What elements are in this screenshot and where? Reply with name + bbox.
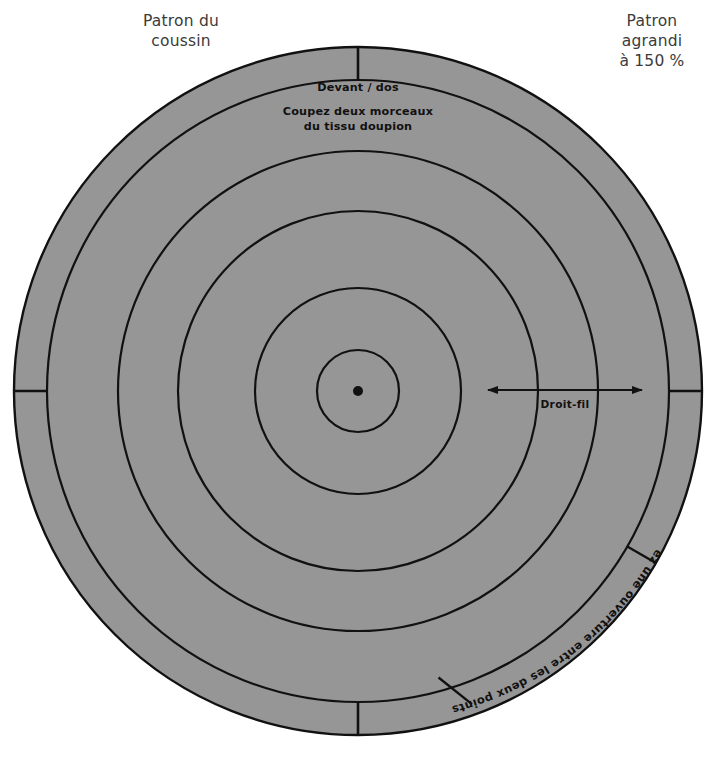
cut-instruction-line-1: Coupez deux morceaux — [283, 105, 434, 118]
grainline-label: Droit-fil — [541, 398, 590, 410]
pattern-sheet: Droit-fil Devant / dos Coupez deux morce… — [0, 0, 715, 758]
cut-instruction-line-2: du tissu doupion — [304, 120, 413, 133]
piece-name-label: Devant / dos — [317, 81, 399, 94]
center-point-dot — [353, 386, 363, 396]
note-scale-enlargement: Patron agrandi à 150 % — [597, 12, 707, 71]
note-pattern-title: Patron du coussin — [96, 12, 266, 52]
cushion-pattern-diagram: Droit-fil Devant / dos Coupez deux morce… — [0, 0, 715, 758]
